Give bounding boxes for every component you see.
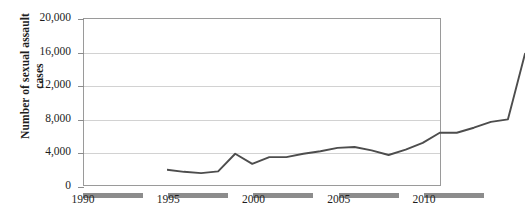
x-axis-tick-label: 1995 [138,193,198,205]
x-axis-tick-label: 2005 [309,193,369,205]
x-axis-tick-label: 1990 [53,193,113,205]
x-axis-tick-label: 2000 [223,193,283,205]
x-axis-tick-label: 2010 [394,193,454,205]
